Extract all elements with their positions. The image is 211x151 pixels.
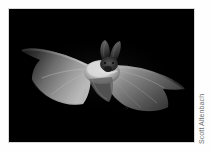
bat-photograph [9, 9, 194, 142]
photo-figure: Scott Altenbach [0, 0, 211, 151]
photo-credit: Scott Altenbach [196, 88, 207, 144]
bat-photo-canvas [9, 9, 194, 142]
